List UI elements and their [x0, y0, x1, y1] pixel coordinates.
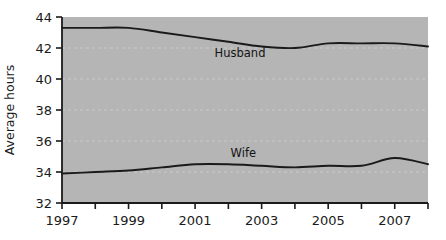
y-tick-label: 44 [35, 10, 52, 25]
y-axis-title: Average hours [2, 65, 17, 155]
x-tick-label: 1999 [112, 213, 145, 228]
x-tick-label: 1997 [45, 213, 78, 228]
x-tick-label: 2003 [245, 213, 278, 228]
y-tick-label: 40 [35, 72, 52, 87]
series-label-wife: Wife [231, 146, 256, 160]
x-tick-label: 2005 [312, 213, 345, 228]
y-tick-label: 42 [35, 41, 52, 56]
y-tick-label: 32 [35, 196, 52, 211]
y-tick-label: 36 [35, 134, 52, 149]
chart-canvas: 32343638404244 199719992001200320052007 … [0, 0, 446, 240]
line-chart: 32343638404244 199719992001200320052007 … [0, 0, 446, 240]
x-tick-label: 2001 [179, 213, 212, 228]
y-tick-label: 34 [35, 165, 52, 180]
y-tick-label: 38 [35, 103, 52, 118]
x-tick-label: 2007 [378, 213, 411, 228]
series-label-husband: Husband [215, 46, 266, 60]
